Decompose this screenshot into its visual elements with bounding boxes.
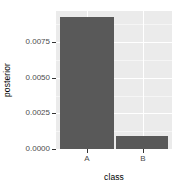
x-tick-label: B <box>128 154 158 164</box>
bar-class-a <box>60 17 114 150</box>
bar-class-b <box>116 136 168 149</box>
y-tick-label: 0.0050 <box>10 74 50 82</box>
chart-container: posterior 0.0075 0.0050 0.0025 0.0000 <box>0 0 182 191</box>
x-tick-label: A <box>72 154 102 164</box>
x-axis-title: class <box>56 172 172 182</box>
x-axis-tick-labels: A B <box>56 154 172 166</box>
x-tick-mark <box>143 149 144 153</box>
y-tick-label: 0.0075 <box>10 38 50 46</box>
plot-panel <box>56 11 172 149</box>
x-axis-tick-marks <box>56 149 172 153</box>
y-tick-label: 0.0000 <box>10 145 50 153</box>
y-tick-label: 0.0025 <box>10 109 50 117</box>
gridline-major-vertical <box>143 11 144 149</box>
y-axis-tick-labels: 0.0075 0.0050 0.0025 0.0000 <box>10 0 50 191</box>
x-tick-mark <box>87 149 88 153</box>
